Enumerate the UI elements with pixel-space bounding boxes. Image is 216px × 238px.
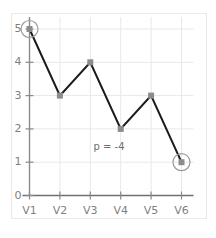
data-point-marker [87, 59, 93, 65]
y-tick-label: 2 [6, 123, 22, 134]
y-tick-label: 3 [6, 90, 22, 101]
chart-plot-area [0, 0, 216, 238]
data-point-marker [118, 126, 124, 132]
y-tick-label: 1 [6, 156, 22, 167]
y-tick-label: 0 [6, 190, 22, 201]
x-tick-label: V4 [106, 205, 136, 216]
x-tick-label: V1 [15, 205, 45, 216]
chart-axes [23, 17, 194, 196]
y-tick-label: 5 [6, 23, 22, 34]
data-point-marker [148, 93, 154, 99]
data-point-marker [27, 26, 33, 32]
p-value-annotation: p = -4 [94, 142, 125, 152]
line-chart-figure: 012345 V1V2V3V4V5V6 p = -4 [0, 0, 216, 238]
vertical-gridlines [60, 17, 182, 196]
x-tick-label: V2 [45, 205, 75, 216]
y-tick-label: 4 [6, 56, 22, 67]
x-tick-label: V6 [167, 205, 197, 216]
x-tick-label: V5 [136, 205, 166, 216]
x-tick-label: V3 [75, 205, 105, 216]
data-point-marker [179, 159, 185, 165]
data-point-marker [57, 93, 63, 99]
